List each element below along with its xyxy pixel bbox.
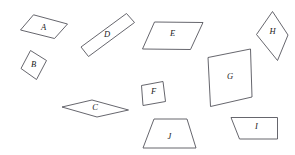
shape-b: B [21,51,47,80]
geometry-figure: ABDEHGFCJI [0,0,295,155]
shape-i: I [231,118,278,140]
shape-h: H [257,12,289,61]
shape-e: E [143,22,204,50]
shape-label-f: F [150,86,157,96]
shape-label-h: H [268,26,276,36]
shape-canvas: ABDEHGFCJI [0,0,295,155]
shape-outline-h [257,12,289,61]
shape-label-g: G [227,71,233,81]
shape-label-d: D [103,29,111,39]
shape-a: A [21,15,68,39]
shape-j: J [143,119,196,148]
shape-c: C [62,100,129,117]
shape-label-b: B [31,59,36,69]
shape-label-c: C [92,102,98,112]
shape-label-e: E [169,28,176,38]
shape-d: D [81,14,135,57]
shape-f: F [142,82,166,106]
shape-label-a: A [40,22,47,32]
shape-g: G [208,49,252,107]
shape-group: ABDEHGFCJI [21,12,289,149]
